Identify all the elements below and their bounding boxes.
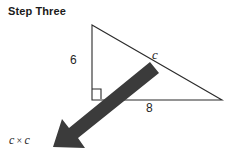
emphasis-arrow xyxy=(53,62,159,148)
triangle-diagram xyxy=(0,0,243,153)
vertical-leg-label: 6 xyxy=(70,53,77,67)
arrow-shape xyxy=(53,62,159,148)
step-three-figure: Step Three 6 8 c c×c xyxy=(0,0,243,153)
right-angle-marker xyxy=(92,89,101,99)
result-right-operand: c xyxy=(24,133,31,147)
hypotenuse-label: c xyxy=(152,47,158,63)
result-left-operand: c xyxy=(9,133,16,147)
horizontal-leg-label: 8 xyxy=(146,101,153,115)
result-expression: c×c xyxy=(9,133,31,148)
